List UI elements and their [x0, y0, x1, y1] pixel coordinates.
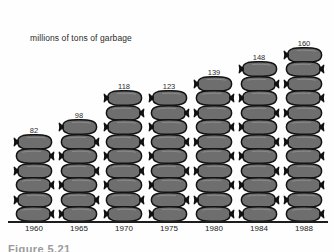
plot-area: 8298118123139148160 [0, 8, 334, 222]
pictograph-column-1984: 148 [237, 54, 281, 222]
garbage-bag-icon [58, 206, 100, 222]
garbage-bag-icon [13, 206, 55, 222]
pictograph-column-1970: 118 [102, 83, 146, 222]
x-tick-label-1970: 1970 [102, 224, 146, 233]
x-tick-label-1965: 1965 [57, 224, 101, 233]
bag-stack [147, 92, 191, 223]
figure-pictograph: millions of tons of garbage 829811812313… [0, 0, 334, 252]
bag-stack [102, 92, 146, 223]
x-axis-baseline [8, 221, 328, 223]
pictograph-column-1965: 98 [57, 112, 101, 222]
garbage-bag-icon [193, 206, 235, 222]
bag-stack [237, 63, 281, 223]
bag-stack [192, 77, 236, 222]
garbage-bag-icon [103, 206, 145, 222]
garbage-bag-icon [148, 206, 190, 222]
pictograph-column-1988: 160 [282, 40, 326, 223]
x-tick-label-1975: 1975 [147, 224, 191, 233]
pictograph-column-1980: 139 [192, 69, 236, 223]
x-axis-tick-labels: 1960196519701975198019841988 [0, 224, 334, 238]
figure-caption: Figure 5.21 [8, 243, 70, 252]
pictograph-column-1975: 123 [147, 83, 191, 222]
pictograph-column-1960: 82 [12, 127, 56, 223]
x-tick-label-1980: 1980 [192, 224, 236, 233]
bag-stack [57, 121, 101, 223]
garbage-bag-icon [283, 206, 325, 222]
bag-stack [12, 135, 56, 222]
garbage-bag-icon [238, 206, 280, 222]
x-tick-label-1960: 1960 [12, 224, 56, 233]
x-tick-label-1988: 1988 [282, 224, 326, 233]
bag-stack [282, 48, 326, 222]
x-tick-label-1984: 1984 [237, 224, 281, 233]
